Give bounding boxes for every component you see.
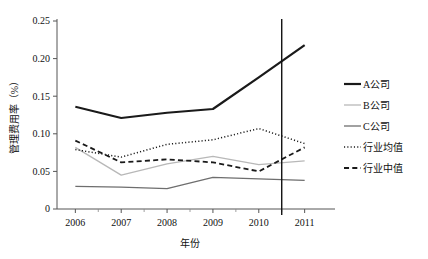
x-tick-label: 2011 xyxy=(295,217,315,228)
y-tick-label: 0.10 xyxy=(33,128,51,139)
legend-label-1: A公司 xyxy=(363,79,390,90)
chart-container: 00.050.100.150.200.25 200620072008200920… xyxy=(0,0,428,259)
legend-label-3: C公司 xyxy=(363,121,390,132)
x-tick-label: 2008 xyxy=(157,217,177,228)
chart-legend: A公司B公司C公司行业均值行业中值 xyxy=(344,79,403,174)
line-chart: 00.050.100.150.200.25 200620072008200920… xyxy=(0,0,428,259)
series-group xyxy=(75,45,304,189)
x-tick-label: 2010 xyxy=(249,217,269,228)
x-tick-label: 2006 xyxy=(65,217,85,228)
x-tick-label: 2009 xyxy=(203,217,223,228)
y-tick-label: 0.05 xyxy=(33,166,51,177)
x-tick-label: 2007 xyxy=(111,217,131,228)
y-axis-ticks: 00.050.100.150.200.25 xyxy=(33,15,58,214)
y-tick-label: 0.20 xyxy=(33,53,51,64)
y-tick-label: 0 xyxy=(45,203,50,214)
legend-label-2: B公司 xyxy=(363,100,390,111)
y-tick-label: 0.25 xyxy=(33,15,51,26)
x-axis-ticks: 200620072008200920102011 xyxy=(65,209,314,228)
legend-label-4: 行业均值 xyxy=(363,141,403,153)
y-tick-label: 0.15 xyxy=(33,91,51,102)
series-line-3 xyxy=(75,177,304,188)
series-line-4 xyxy=(75,129,304,158)
legend-label-5: 行业中值 xyxy=(363,162,403,174)
x-axis-title: 年份 xyxy=(180,237,200,249)
series-line-5 xyxy=(75,141,304,172)
series-line-1 xyxy=(75,45,304,118)
y-axis-title: 管理费用率（%） xyxy=(8,76,20,154)
